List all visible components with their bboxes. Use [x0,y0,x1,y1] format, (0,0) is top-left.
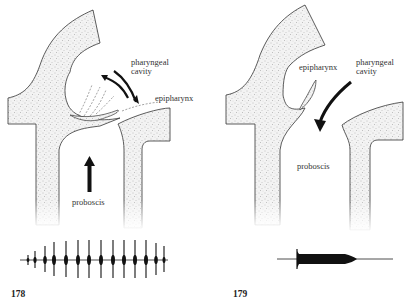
left-tissue-179 [226,5,325,225]
vibration-dashes [78,85,160,116]
oscillogram-178 [20,240,168,278]
label-epipharynx-179: epipharynx [299,63,337,72]
epipharynx-179 [300,80,316,110]
label-line: cavity [356,67,394,76]
figure-number-178: 178 [11,289,25,299]
label-pharyngeal-cavity-179: pharyngeal cavity [356,58,394,76]
upward-flow-arrow [84,156,95,192]
flow-arrow [320,82,351,122]
diagram-canvas [0,0,414,305]
label-line: cavity [131,67,169,76]
label-proboscis-178: proboscis [72,198,105,207]
label-proboscis-179: proboscis [297,162,330,171]
label-epipharynx-178: epipharynx [155,94,193,103]
oscillogram-179 [277,249,393,269]
figure-number-179: 179 [233,289,247,299]
figure-179-anatomy [226,5,403,232]
sound-burst [297,251,357,268]
label-pharyngeal-cavity-178: pharyngeal cavity [131,58,169,76]
